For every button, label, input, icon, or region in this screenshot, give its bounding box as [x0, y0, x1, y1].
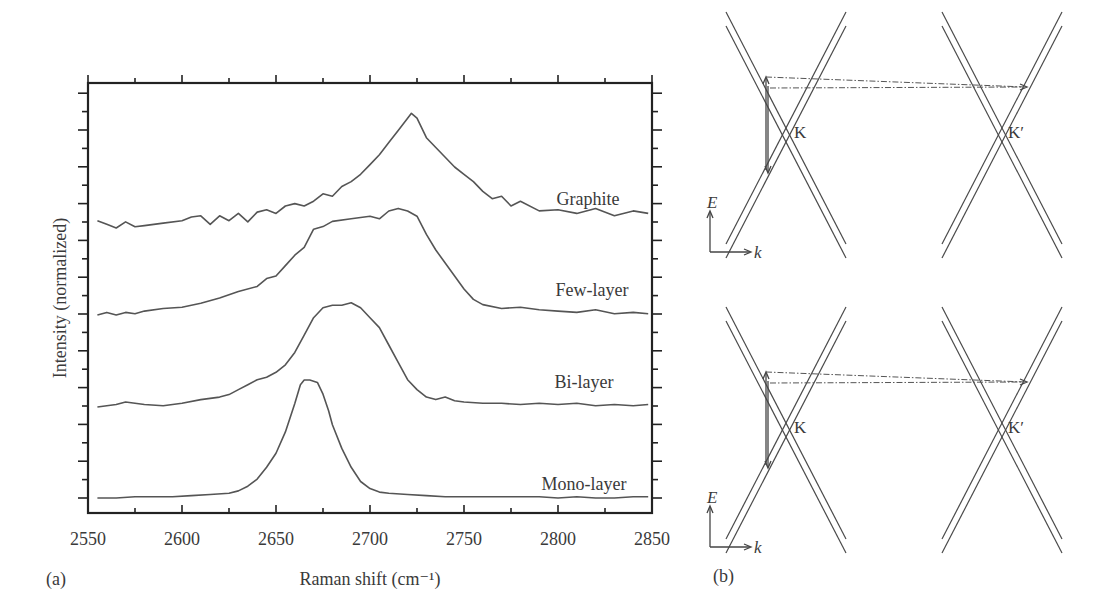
dirac-cone-kprime	[942, 12, 1062, 258]
band-diagram-1: KK′Ek	[706, 12, 1062, 262]
band-diagram-panel: KK′EkKK′Ek (b)	[706, 12, 1062, 587]
y-axis-label: Intensity (normalized)	[50, 218, 71, 378]
panel-b-label: (b)	[713, 566, 734, 587]
spectrum-graphite	[97, 113, 648, 228]
x-tick-label: 2850	[634, 529, 670, 549]
x-tick-label: 2700	[352, 529, 388, 549]
axis-label-k: k	[754, 243, 762, 262]
curve-labels: GraphiteFew-layerBi-layerMono-layer	[542, 189, 629, 494]
panel-a-label: (a)	[46, 569, 66, 590]
valley-label-kprime: K′	[1008, 418, 1024, 437]
dirac-cone-kprime	[942, 307, 1062, 553]
x-tick-label: 2800	[540, 529, 576, 549]
curve-label-bi-layer: Bi-layer	[555, 372, 614, 392]
band-diagrams: KK′EkKK′Ek	[706, 12, 1062, 557]
x-tick-label: 2550	[70, 529, 106, 549]
valley-label-k: K	[794, 418, 807, 437]
dirac-cone-k	[726, 307, 846, 553]
x-axis-label: Raman shift (cm⁻¹)	[300, 569, 441, 590]
axis-label-e: E	[706, 488, 718, 507]
curve-label-few-layer: Few-layer	[556, 280, 629, 300]
x-tick-label: 2600	[164, 529, 200, 549]
axis-label-k: k	[754, 538, 762, 557]
valley-label-kprime: K′	[1008, 123, 1024, 142]
x-axis-label-text: Raman shift (cm⁻¹)	[300, 569, 441, 590]
raman-spectra-panel: GraphiteFew-layerBi-layerMono-layer 2550…	[46, 75, 670, 590]
curve-label-graphite: Graphite	[557, 189, 620, 209]
figure: GraphiteFew-layerBi-layerMono-layer 2550…	[0, 0, 1110, 607]
dirac-cone-k	[726, 12, 846, 258]
x-tick-label: 2650	[258, 529, 294, 549]
axis-label-e: E	[706, 193, 718, 212]
phonon-scatter-line	[770, 382, 1024, 383]
valley-label-k: K	[794, 123, 807, 142]
phonon-scatter-line	[770, 87, 1024, 88]
phonon-scatter-line	[766, 372, 1026, 382]
x-tick-labels: 2550260026502700275028002850	[70, 529, 670, 549]
x-tick-label: 2750	[446, 529, 482, 549]
spectra-curves	[97, 113, 648, 498]
phonon-scatter-line	[766, 77, 1026, 87]
band-diagram-2: KK′Ek	[706, 307, 1062, 557]
curve-label-mono-layer: Mono-layer	[542, 474, 627, 494]
